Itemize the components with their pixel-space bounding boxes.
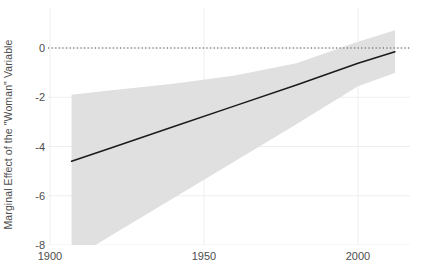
confidence-ribbon xyxy=(72,30,395,245)
x-tick-0: 1900 xyxy=(20,250,80,262)
y-tick-1: -2 xyxy=(15,91,45,103)
x-tick-1: 1950 xyxy=(174,250,234,262)
plot-area xyxy=(48,8,410,245)
y-tick-2: -4 xyxy=(15,141,45,153)
y-axis-tick-labels: 0 -2 -4 -6 -8 xyxy=(12,0,45,269)
marginal-effects-plot: Marginal Effect of the "Woman" Variable … xyxy=(0,0,428,269)
x-tick-2: 2000 xyxy=(328,250,388,262)
x-axis-tick-labels: 1900 1950 2000 xyxy=(0,250,428,269)
y-tick-0: 0 xyxy=(15,42,45,54)
y-tick-3: -6 xyxy=(15,190,45,202)
plot-panel xyxy=(48,8,410,245)
